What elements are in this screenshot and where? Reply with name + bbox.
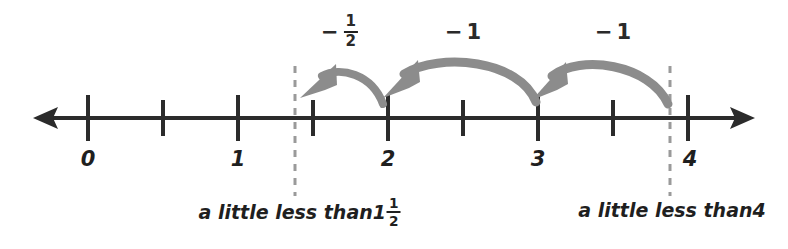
tick-label-2: 2 <box>381 147 396 171</box>
hop-arrow-one-right <box>532 62 668 104</box>
tick-label-0: 0 <box>81 147 96 171</box>
hop-label-half-fraction: 1 2 <box>344 14 359 50</box>
axis-group <box>33 107 755 129</box>
hop-arrow-one-right-head-icon <box>532 62 568 100</box>
caption-left: a little less than 1 1 2 <box>199 196 402 229</box>
hop-label-one-middle: − 1 <box>445 20 481 44</box>
tick-label-1: 1 <box>231 147 246 171</box>
hop-label-half-denominator: 2 <box>344 34 359 50</box>
caption-left-fraction: 1 2 <box>387 196 401 229</box>
hop-label-one-right: − 1 <box>595 20 631 44</box>
hop-arrow-one-middle-head-icon <box>383 60 420 98</box>
tick-label-4: 4 <box>683 147 698 171</box>
caption-right-prefix: a little less than <box>578 199 752 221</box>
caption-left-whole: 1 <box>373 201 386 223</box>
hop-arrow-one-right-path <box>552 65 668 104</box>
caption-left-denominator: 2 <box>387 214 401 228</box>
hop-label-half-minus: − <box>321 20 339 44</box>
hop-label-one-middle-value: 1 <box>466 20 481 44</box>
hop-label-one-right-value: 1 <box>616 20 631 44</box>
caption-left-numerator: 1 <box>387 196 401 210</box>
caption-left-prefix: a little less than <box>199 201 373 223</box>
number-line-figure: 0 1 2 3 4 − 1 2 − 1 − 1 a little less th… <box>0 0 788 249</box>
tick-label-3: 3 <box>531 147 546 171</box>
hop-arrow-half <box>300 64 383 104</box>
hop-label-half: − 1 2 <box>321 14 359 50</box>
caption-right-whole: 4 <box>753 199 766 221</box>
caption-right: a little less than 4 <box>578 199 765 221</box>
hop-arrow-one-middle-path <box>404 62 536 102</box>
hop-arrow-one-middle <box>383 60 536 102</box>
hop-label-one-middle-minus: − <box>445 20 463 44</box>
hop-arrow-half-head-icon <box>300 64 337 98</box>
hop-label-one-right-minus: − <box>595 20 613 44</box>
hop-arrows <box>300 60 668 104</box>
hop-label-half-numerator: 1 <box>344 14 359 30</box>
